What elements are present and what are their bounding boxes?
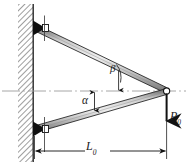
length-subscript: 0 [93,148,97,157]
apex-pin-joint [164,88,170,94]
load-subscript: 0 [177,118,181,127]
figure-container: α β P0 L0 [0,0,188,166]
length-label: L0 [86,140,96,155]
wall-hatched [18,4,33,162]
top-pin-support [33,16,49,42]
upper-bar [36,25,167,94]
lower-bar [36,89,167,133]
angle-label-beta: β [110,63,115,74]
angle-label-alpha: α [82,95,88,107]
length-symbol: L [86,139,93,153]
load-label: P0 [170,110,181,125]
